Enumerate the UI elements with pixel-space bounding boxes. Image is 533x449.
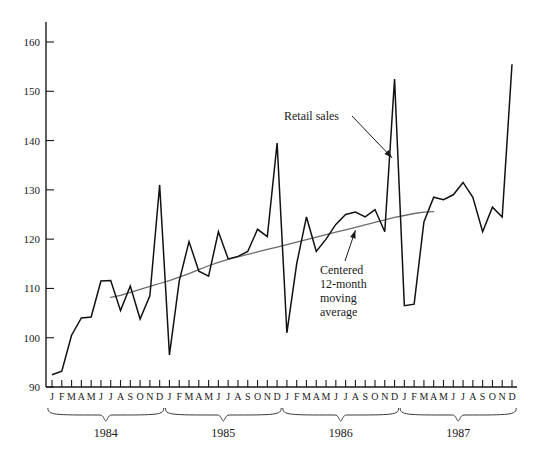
x-month-label: J xyxy=(99,391,103,402)
retail-sales-line xyxy=(52,64,512,375)
x-month-label: O xyxy=(489,391,496,402)
x-month-label: N xyxy=(381,391,388,402)
x-month-label: A xyxy=(313,391,321,402)
y-tick-label: 100 xyxy=(24,332,41,344)
x-month-label: M xyxy=(419,391,428,402)
x-month-label: J xyxy=(226,391,230,402)
x-month-label: N xyxy=(499,391,506,402)
x-month-label: N xyxy=(264,391,271,402)
year-label: 1986 xyxy=(329,426,353,440)
x-month-label: J xyxy=(461,391,465,402)
annotation-retail-sales-label: Retail sales xyxy=(284,109,339,123)
x-month-label: J xyxy=(344,391,348,402)
x-month-label: M xyxy=(185,391,194,402)
x-month-label: F xyxy=(411,391,417,402)
annotation-moving-average: Centered 12-month moving average xyxy=(320,230,367,319)
x-month-label: A xyxy=(352,391,360,402)
x-month-label: M xyxy=(67,391,76,402)
x-axis-month-labels: JFMAMJJASONDJFMAMJJASONDJFMAMJJASONDJFMA… xyxy=(50,391,516,402)
x-month-label: F xyxy=(59,391,65,402)
x-month-label: S xyxy=(245,391,251,402)
x-axis-ticks xyxy=(52,380,512,387)
x-month-label: M xyxy=(87,391,96,402)
year-label: 1987 xyxy=(446,426,470,440)
year-labels: 1984198519861987 xyxy=(94,426,470,440)
x-month-label: J xyxy=(167,391,171,402)
annotation-ma-line-3: moving xyxy=(320,291,357,305)
annotation-ma-line-4: average xyxy=(320,305,357,319)
y-tick-label: 130 xyxy=(24,184,41,196)
y-tick-label: 160 xyxy=(24,36,41,48)
x-month-label: M xyxy=(439,391,448,402)
x-month-label: J xyxy=(216,391,220,402)
x-month-label: J xyxy=(285,391,289,402)
x-month-label: D xyxy=(156,391,163,402)
year-label: 1984 xyxy=(94,426,118,440)
annotation-retail-sales: Retail sales xyxy=(284,109,392,158)
year-bracket xyxy=(400,408,516,421)
x-month-label: F xyxy=(176,391,182,402)
x-month-label: J xyxy=(50,391,54,402)
x-month-label: S xyxy=(480,391,486,402)
x-month-label: O xyxy=(136,391,143,402)
x-month-label: N xyxy=(146,391,153,402)
x-month-label: D xyxy=(273,391,280,402)
x-month-label: J xyxy=(334,391,338,402)
x-month-label: A xyxy=(469,391,477,402)
y-axis-ticks xyxy=(46,42,54,387)
y-axis-tick-labels: 90100110120130140150160 xyxy=(24,36,41,393)
x-month-label: J xyxy=(451,391,455,402)
x-month-label: S xyxy=(128,391,134,402)
annotation-ma-line-1: Centered xyxy=(320,263,363,277)
year-brackets xyxy=(48,408,516,421)
x-month-label: O xyxy=(371,391,378,402)
y-tick-label: 120 xyxy=(24,233,41,245)
y-tick-label: 140 xyxy=(24,135,41,147)
retail-sales-chart: 90100110120130140150160 JFMAMJJASONDJFMA… xyxy=(0,0,533,449)
year-bracket xyxy=(48,408,164,421)
x-month-label: M xyxy=(204,391,213,402)
y-tick-label: 150 xyxy=(24,85,41,97)
x-month-label: D xyxy=(508,391,515,402)
y-tick-label: 110 xyxy=(24,282,41,294)
x-month-label: A xyxy=(117,391,125,402)
x-month-label: A xyxy=(195,391,203,402)
y-tick-label: 90 xyxy=(29,381,41,393)
x-month-label: A xyxy=(430,391,438,402)
x-month-label: F xyxy=(294,391,300,402)
x-month-label: J xyxy=(402,391,406,402)
x-month-label: M xyxy=(302,391,311,402)
chart-canvas: 90100110120130140150160 JFMAMJJASONDJFMA… xyxy=(0,0,533,449)
x-month-label: A xyxy=(234,391,242,402)
annotation-retail-sales-leader xyxy=(352,116,392,158)
x-month-label: D xyxy=(391,391,398,402)
annotation-ma-arrowhead xyxy=(350,230,355,239)
x-month-label: S xyxy=(362,391,368,402)
year-bracket xyxy=(165,408,281,421)
x-month-label: O xyxy=(254,391,261,402)
x-month-label: M xyxy=(322,391,331,402)
year-label: 1985 xyxy=(211,426,235,440)
year-bracket xyxy=(283,408,399,421)
annotation-ma-line-2: 12-month xyxy=(320,277,367,291)
x-month-label: J xyxy=(109,391,113,402)
x-month-label: A xyxy=(78,391,86,402)
